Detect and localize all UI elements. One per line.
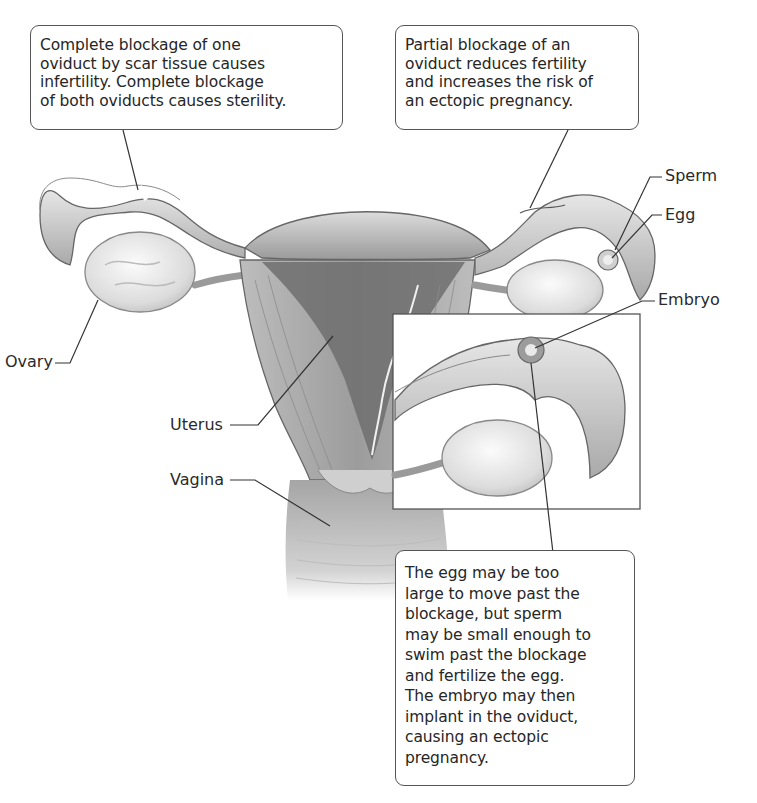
callout-line: The egg may be too (405, 563, 625, 584)
callout-line: pregnancy. (405, 748, 625, 769)
callout-line: large to move past the (405, 584, 625, 605)
inset-ectopic-view (393, 314, 640, 509)
callout-line: implant in the oviduct, (405, 707, 625, 728)
callout-partial-blockage: Partial blockage of an oviduct reduces f… (395, 25, 639, 130)
label-vagina: Vagina (170, 470, 224, 489)
callout-line: oviduct reduces fertility (405, 55, 629, 74)
label-embryo: Embryo (658, 290, 720, 309)
callout-line: of both oviducts causes sterility. (40, 92, 333, 111)
callout-ectopic-explanation: The egg may be too large to move past th… (395, 550, 635, 786)
callout-line: oviduct by scar tissue causes (40, 55, 333, 74)
callout-line: and fertilize the egg. (405, 666, 625, 687)
callout-line: blockage, but sperm (405, 604, 625, 625)
callout-complete-blockage: Complete blockage of one oviduct by scar… (30, 25, 343, 130)
label-sperm: Sperm (665, 166, 717, 185)
callout-line: swim past the blockage (405, 645, 625, 666)
label-uterus: Uterus (170, 415, 223, 434)
callout-line: Complete blockage of one (40, 36, 333, 55)
label-egg: Egg (665, 205, 695, 224)
label-ovary: Ovary (5, 352, 53, 371)
callout-line: and increases the risk of (405, 73, 629, 92)
callout-line: infertility. Complete blockage (40, 73, 333, 92)
callout-line: causing an ectopic (405, 727, 625, 748)
callout-line: may be small enough to (405, 625, 625, 646)
callout-line: an ectopic pregnancy. (405, 92, 629, 111)
callout-line: The embryo may then (405, 686, 625, 707)
callout-line: Partial blockage of an (405, 36, 629, 55)
